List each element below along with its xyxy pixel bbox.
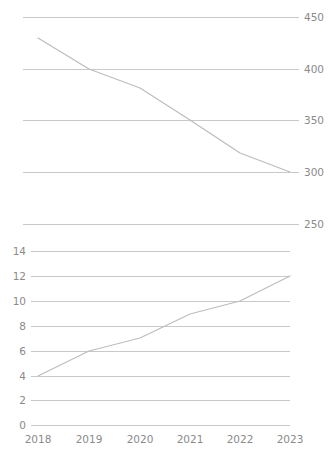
ytick-label-10: 10	[13, 295, 26, 307]
ytick-label-0: 0	[19, 419, 26, 431]
xtick-label-2019: 2019	[76, 433, 103, 445]
ytick-label-4: 4	[19, 370, 26, 382]
ytick-label-300: 300	[304, 166, 324, 178]
ytick-label-2: 2	[19, 394, 26, 406]
ytick-label-12: 12	[13, 270, 26, 282]
xtick-label-2021: 2021	[177, 433, 204, 445]
ytick-label-14: 14	[13, 245, 27, 257]
ytick-label-250: 250	[304, 218, 324, 230]
ytick-label-450: 450	[304, 11, 324, 23]
xtick-label-2022: 2022	[227, 433, 254, 445]
dual-axis-line-chart: 450 400 350 300 250	[0, 0, 328, 461]
chart-canvas: 450 400 350 300 250	[0, 0, 328, 461]
ytick-label-6: 6	[19, 345, 26, 357]
ytick-label-8: 8	[19, 320, 26, 332]
xtick-label-2023: 2023	[277, 433, 304, 445]
ytick-label-400: 400	[304, 63, 324, 75]
xtick-label-2018: 2018	[25, 433, 52, 445]
ytick-label-350: 350	[304, 114, 324, 126]
xtick-label-2020: 2020	[127, 433, 154, 445]
